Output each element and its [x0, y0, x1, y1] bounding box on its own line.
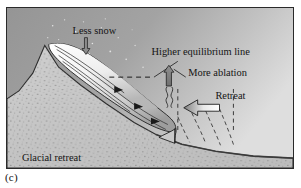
retreat-label: Retreat [215, 90, 245, 101]
figure-frame: Less snow Higher equilibrium line More a… [6, 7, 294, 169]
glacial-retreat-label: Glacial retreat [22, 152, 81, 163]
glacial-retreat-diagram: Less snow Higher equilibrium line More a… [7, 8, 293, 168]
less-snow-label: Less snow [73, 25, 117, 36]
more-ablation-label: More ablation [188, 67, 247, 78]
figure-page: Less snow Higher equilibrium line More a… [0, 0, 301, 188]
figure-caption: (c) [5, 170, 18, 184]
higher-equilibrium-line-label: Higher equilibrium line [152, 46, 251, 57]
